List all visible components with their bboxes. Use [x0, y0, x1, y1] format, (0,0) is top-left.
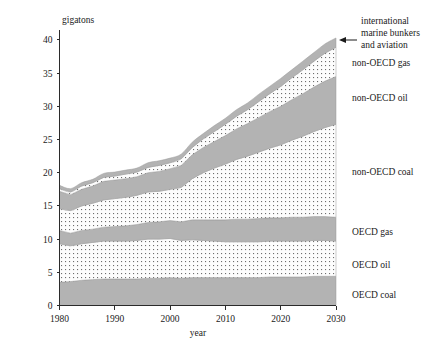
y-tick-label: 5 [48, 268, 53, 278]
y-axis: 0510152025303540 [43, 30, 60, 311]
series-labels: international marine bunkers and aviatio… [352, 16, 420, 300]
y-tick-label: 10 [43, 235, 53, 245]
x-tick-label: 2010 [216, 314, 235, 324]
x-tick-label: 2000 [161, 314, 180, 324]
y-axis-title: gigatons [62, 15, 94, 25]
x-tick-label: 2030 [327, 314, 346, 324]
band-oecd-coal [60, 276, 337, 305]
x-axis: 198019902000201020202030 [50, 306, 346, 324]
y-tick-label: 0 [48, 301, 53, 311]
pointer-annotation [339, 37, 357, 43]
label-non-oecd-oil: non-OECD oil [352, 93, 408, 103]
x-tick-label: 1980 [50, 314, 69, 324]
label-bunkers-line3: and aviation [361, 40, 408, 50]
label-oecd-coal: OECD coal [352, 290, 396, 300]
x-axis-title: year [190, 328, 207, 338]
stacked-bands [60, 38, 337, 306]
y-tick-label: 35 [43, 69, 53, 79]
label-bunkers-line1: international [361, 16, 409, 26]
y-tick-label: 15 [43, 201, 53, 211]
y-tick-label: 20 [43, 168, 53, 178]
x-tick-group: 198019902000201020202030 [50, 306, 346, 324]
y-tick-label: 25 [43, 135, 53, 145]
x-tick-label: 2020 [271, 314, 290, 324]
label-bunkers-line2: marine bunkers [361, 28, 420, 38]
label-non-oecd-gas: non-OECD gas [352, 58, 411, 68]
label-oecd-gas: OECD gas [352, 227, 393, 237]
pointer-arrow-head [339, 37, 346, 43]
band-oecd-oil [60, 238, 337, 282]
label-non-oecd-coal: non-OECD coal [352, 167, 414, 177]
y-tick-group: 0510152025303540 [43, 35, 60, 311]
label-oecd-oil: OECD oil [352, 260, 391, 270]
plot-area [60, 38, 337, 306]
emissions-stacked-area-chart: 0510152025303540 19801990200020102020203… [0, 0, 439, 360]
y-tick-label: 40 [43, 35, 53, 45]
y-tick-label: 30 [43, 102, 53, 112]
x-tick-label: 1990 [105, 314, 124, 324]
